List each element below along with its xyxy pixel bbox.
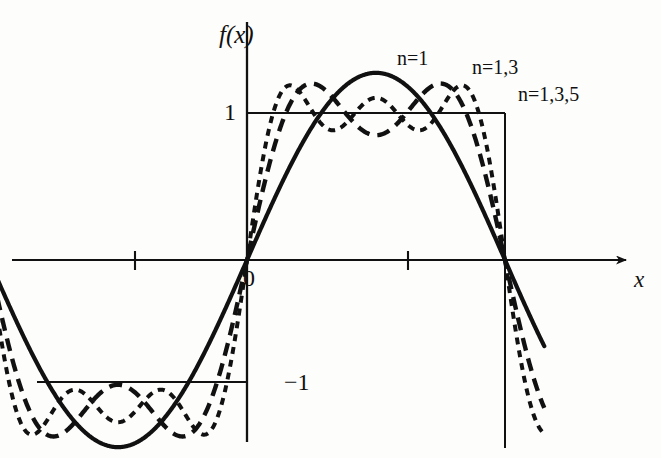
x-axis-label: x [634,268,644,291]
fourier-square-wave-figure: f(x) x 1 −1 0 n=1 n=1,3 n=1,3,5 [0,0,661,458]
annotation-n13: n=1,3 [472,57,518,77]
y-tick-label-minus-one: −1 [284,370,310,394]
y-axis-label: f(x) [219,22,254,47]
origin-label: 0 [243,266,255,290]
plot-canvas [0,0,661,458]
y-tick-label-one: 1 [224,100,236,124]
annotation-n1: n=1 [397,48,428,68]
annotation-n135: n=1,3,5 [518,84,579,104]
